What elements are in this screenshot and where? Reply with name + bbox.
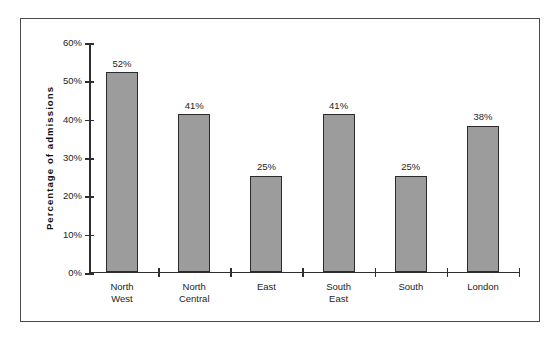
- bar-value-label: 25%: [401, 162, 420, 172]
- bar[interactable]: 41%: [178, 114, 210, 271]
- x-axis-tick-mark: [447, 268, 449, 277]
- y-axis-tick-label: 0%: [68, 268, 82, 278]
- y-axis-tick-mark: [85, 235, 94, 237]
- bar-value-label: 38%: [473, 112, 492, 122]
- plot-area: 0%10%20%30%40%50%60% 52%41%25%41%25%38% …: [89, 43, 520, 273]
- y-axis-tick-mark: [85, 81, 94, 83]
- x-axis-tick-mark: [302, 268, 304, 277]
- x-axis-tick-mark: [158, 268, 160, 277]
- x-axis-tick-mark: [230, 268, 232, 277]
- bar[interactable]: 41%: [323, 114, 355, 271]
- y-axis-tick-label: 20%: [63, 192, 82, 202]
- y-axis-title: Percentage of admissions: [43, 43, 57, 273]
- x-axis-line: [89, 272, 520, 274]
- y-axis-tick-mark: [85, 273, 94, 275]
- y-axis-tick-label: 60%: [63, 38, 82, 48]
- x-axis-end-cap: [519, 268, 521, 277]
- y-axis-tick-mark: [85, 196, 94, 198]
- y-axis-tick-label: 40%: [63, 115, 82, 125]
- x-axis-category-label: London: [438, 281, 528, 293]
- bar-value-label: 41%: [329, 101, 348, 111]
- y-axis-tick-mark: [85, 158, 94, 160]
- chart-frame: Percentage of admissions 0%10%20%30%40%5…: [20, 18, 540, 322]
- bar[interactable]: 25%: [250, 176, 282, 272]
- y-axis-tick-label: 30%: [63, 153, 82, 163]
- bar-value-label: 52%: [112, 59, 131, 69]
- y-axis-tick-mark: [85, 43, 94, 45]
- y-axis-tick-label: 50%: [63, 77, 82, 87]
- x-axis-tick-mark: [375, 268, 377, 277]
- bar-value-label: 41%: [185, 101, 204, 111]
- bar[interactable]: 38%: [467, 126, 499, 272]
- y-axis-tick-label: 10%: [63, 230, 82, 240]
- bar-value-label: 25%: [257, 162, 276, 172]
- y-axis-tick-mark: [85, 120, 94, 122]
- bar[interactable]: 52%: [106, 72, 138, 271]
- bar[interactable]: 25%: [395, 176, 427, 272]
